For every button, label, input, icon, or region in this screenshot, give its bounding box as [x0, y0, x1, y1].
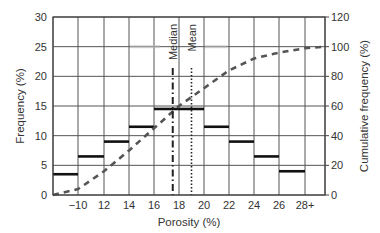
x-tick-label: 12 — [98, 199, 110, 211]
x-tick-label: 20 — [198, 199, 210, 211]
x-axis-label: Porosity (%) — [158, 216, 221, 228]
right-y-tick-label: 0 — [331, 189, 337, 201]
histogram-chart: MedianMean 051015202530 020406080100120 … — [0, 0, 380, 233]
smudge-mark — [205, 45, 227, 48]
smudge-mark — [130, 45, 160, 48]
x-tick-label: 26 — [273, 199, 285, 211]
right-y-axis-label: Cumulative frequency (%) — [358, 40, 370, 172]
left-y-tick-label: 20 — [35, 70, 47, 82]
right-y-tick-label: 100 — [331, 41, 349, 53]
left-y-axis-ticks: 051015202530 — [35, 11, 47, 201]
x-tick-label: −10 — [69, 199, 88, 211]
median-label: Median — [167, 24, 179, 60]
x-tick-label: 22 — [223, 199, 235, 211]
right-y-tick-label: 20 — [331, 159, 343, 171]
x-tick-label: 24 — [248, 199, 260, 211]
x-tick-label: 18 — [173, 199, 185, 211]
cumulative-curve — [53, 47, 325, 195]
x-axis-ticks: −10121416182022242628+ — [69, 199, 315, 211]
x-tick-label: 16 — [148, 199, 160, 211]
right-y-tick-label: 60 — [331, 100, 343, 112]
left-y-axis-label: Frequency (%) — [14, 68, 26, 144]
right-y-tick-label: 40 — [331, 130, 343, 142]
left-y-tick-label: 15 — [35, 100, 47, 112]
left-y-tick-label: 5 — [41, 159, 47, 171]
mean-label: Mean — [186, 24, 198, 52]
x-tick-label: 28+ — [296, 199, 315, 211]
right-y-tick-label: 80 — [331, 70, 343, 82]
left-y-tick-label: 25 — [35, 41, 47, 53]
cumulative-frequency-line — [53, 47, 325, 195]
x-tick-label: 14 — [123, 199, 135, 211]
left-y-tick-label: 0 — [41, 189, 47, 201]
right-y-tick-label: 120 — [331, 11, 349, 23]
right-y-axis-ticks: 020406080100120 — [325, 11, 349, 201]
left-y-tick-label: 30 — [35, 11, 47, 23]
left-y-tick-label: 10 — [35, 130, 47, 142]
